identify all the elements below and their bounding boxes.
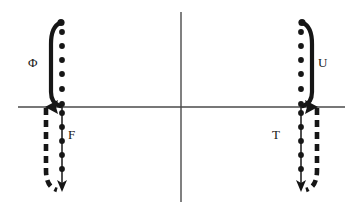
dot (298, 86, 304, 92)
dot (59, 101, 65, 107)
dot (298, 166, 304, 172)
label-t: T (272, 128, 280, 141)
dot (298, 57, 304, 63)
label-f: F (68, 128, 75, 141)
dot (298, 110, 304, 116)
dot (298, 124, 304, 130)
dot (59, 124, 65, 130)
t-dashed-curve (306, 108, 317, 190)
dot (59, 110, 65, 116)
dot (298, 43, 304, 49)
u-curve (303, 23, 312, 106)
dot (298, 101, 304, 107)
u-top-arrowhead (298, 19, 305, 26)
phase-diagram (0, 0, 360, 211)
branch-f (46, 108, 57, 190)
dot (59, 166, 65, 172)
phi-top-arrowhead (57, 19, 64, 26)
t-dot-column (296, 107, 306, 192)
dot (59, 57, 65, 63)
phi-curve (51, 23, 60, 106)
branch-t (306, 108, 317, 190)
f-dashed-curve (46, 108, 57, 190)
dot (298, 138, 304, 144)
dot (59, 71, 65, 77)
dot (59, 43, 65, 49)
f-dot-column (57, 107, 67, 192)
label-u: U (318, 56, 327, 69)
dot (59, 29, 65, 35)
dot (59, 86, 65, 92)
dot (59, 152, 65, 158)
phi-dot-column (59, 29, 65, 107)
u-dot-column (298, 29, 304, 107)
dot (298, 29, 304, 35)
dot (298, 152, 304, 158)
label-phi: Φ (28, 56, 38, 69)
dot (59, 138, 65, 144)
dot (298, 71, 304, 77)
